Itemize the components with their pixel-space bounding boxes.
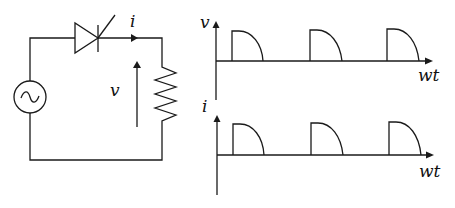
circuit: i v [14, 11, 176, 160]
current-waveform-plot: i wt [202, 96, 441, 195]
voltage-x-label: wt [418, 65, 440, 85]
voltage-label: v [110, 80, 120, 100]
wire-left-bottom [30, 113, 162, 160]
voltage-y-label: v [200, 12, 210, 32]
current-pulse-2 [311, 123, 343, 155]
current-pulse-3 [389, 122, 421, 155]
current-x-label: wt [419, 161, 441, 181]
ac-source-icon [14, 81, 46, 113]
voltage-arrow-icon [133, 61, 141, 127]
current-y-axis-arrow-icon [214, 115, 221, 122]
voltage-waveform-plot: v wt [200, 12, 440, 100]
current-pulse-1 [233, 124, 264, 155]
wire-left-top [30, 38, 75, 81]
current-x-axis-arrow-icon [426, 152, 434, 159]
voltage-y-axis-arrow-icon [213, 21, 220, 28]
wire-top-right [98, 38, 162, 62]
voltage-pulse-2 [310, 30, 342, 61]
voltage-x-axis-arrow-icon [425, 58, 433, 65]
current-label: i [130, 11, 135, 31]
diagram-canvas: i v v wt i wt [0, 0, 455, 208]
thyristor-icon [75, 15, 115, 53]
current-y-label: i [202, 96, 207, 116]
voltage-pulse-3 [387, 29, 419, 61]
resistor-icon [155, 62, 176, 127]
voltage-pulse-1 [232, 31, 263, 61]
current-arrow-icon [131, 34, 138, 42]
